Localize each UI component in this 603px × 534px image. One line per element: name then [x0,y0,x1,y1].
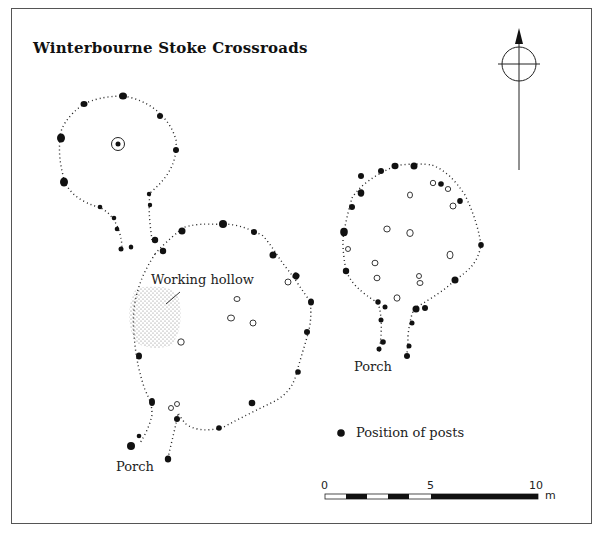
small-house-posts [57,93,179,252]
working-hollow-area [129,287,180,348]
scale-tick-5: 5 [427,479,434,492]
legend-posts-label: Position of posts [356,425,464,440]
post-legend-icon [337,429,345,437]
right-house-stakeholes [346,180,457,301]
north-arrow-icon [498,28,540,170]
site-plan [0,0,603,534]
scale-bar [325,494,538,499]
porch-label-right: Porch [354,359,392,374]
working-hollow-label: Working hollow [151,272,254,287]
central-post-icon [112,138,125,151]
porch-label-left: Porch [116,459,154,474]
scale-unit: m [545,489,556,502]
scale-tick-0: 0 [321,479,328,492]
large-house-stakeholes [169,279,292,411]
scale-tick-10: 10 [529,479,543,492]
